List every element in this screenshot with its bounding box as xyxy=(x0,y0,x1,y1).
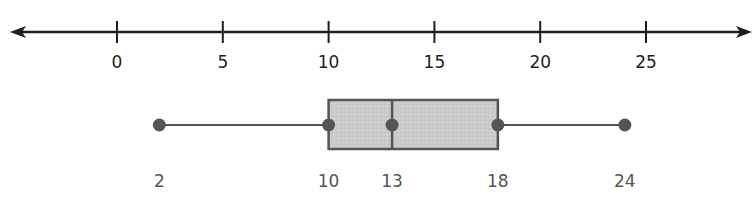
min-point xyxy=(153,119,166,132)
median-point xyxy=(386,119,399,132)
axis-tick-label: 25 xyxy=(635,52,657,72)
q3-value-label: 18 xyxy=(487,171,509,191)
axis-tick-label: 5 xyxy=(217,52,228,72)
max-point xyxy=(618,119,631,132)
q3-point xyxy=(491,119,504,132)
interquartile-box xyxy=(329,100,498,149)
axis-tick-label: 20 xyxy=(529,52,551,72)
number-line-axis xyxy=(10,21,752,43)
box-plot-chart: 0510152025 210131824 xyxy=(0,0,756,200)
axis-tick-labels: 0510152025 xyxy=(112,52,657,72)
axis-tick-label: 10 xyxy=(318,52,340,72)
axis-tick-label: 15 xyxy=(424,52,446,72)
box-plot xyxy=(153,100,632,149)
min-value-label: 2 xyxy=(154,171,165,191)
max-value-label: 24 xyxy=(614,171,636,191)
value-labels: 210131824 xyxy=(154,171,636,191)
median-value-label: 13 xyxy=(381,171,403,191)
axis-tick-label: 0 xyxy=(112,52,123,72)
q1-point xyxy=(322,119,335,132)
q1-value-label: 10 xyxy=(318,171,340,191)
